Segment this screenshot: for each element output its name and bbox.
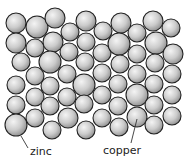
atom-icon: [126, 84, 148, 106]
atom-icon: [93, 86, 111, 104]
atom-icon: [45, 8, 65, 28]
atom-icon: [7, 76, 25, 94]
atom-icon: [145, 116, 163, 134]
atom-icon: [143, 11, 163, 31]
atom-icon: [163, 86, 181, 104]
atom-icon: [110, 118, 128, 136]
atom-icon: [109, 75, 127, 93]
atom-icon: [145, 96, 163, 114]
atom-icon: [128, 45, 146, 63]
atom-icon: [61, 23, 79, 41]
zinc-label: zinc: [30, 146, 52, 157]
atom-icon: [77, 121, 95, 139]
atom-icon: [127, 107, 147, 127]
atom-icon: [75, 95, 93, 113]
atom-icon: [6, 33, 26, 53]
atom-icon: [162, 19, 180, 37]
atom-icon: [76, 53, 94, 71]
brass-lattice-diagram: [0, 0, 188, 163]
zinc-pointer-line: [21, 136, 28, 148]
atom-icon: [109, 97, 127, 115]
atom-icon: [163, 107, 181, 125]
atom-icon: [5, 114, 27, 136]
atom-icon: [93, 64, 111, 82]
copper-label: copper: [103, 145, 141, 156]
atom-icon: [108, 33, 130, 55]
atom-icon: [111, 55, 129, 73]
atom-icon: [12, 53, 30, 71]
atom-icon: [146, 54, 164, 72]
atom-icon: [73, 74, 95, 96]
atom-icon: [58, 88, 76, 106]
atom-icon: [58, 65, 76, 83]
atom-icon: [41, 77, 59, 95]
atom-icon: [76, 11, 96, 31]
atom-icon: [26, 109, 44, 127]
atom-icon: [60, 43, 78, 61]
atom-icon: [128, 65, 146, 83]
atom-icon: [26, 39, 44, 57]
atom-icon: [145, 75, 163, 93]
atom-icon: [39, 51, 61, 73]
atom-icon: [43, 121, 61, 139]
atom-icon: [41, 97, 59, 115]
atom-group: [5, 8, 183, 139]
atom-icon: [93, 109, 111, 127]
atom-icon: [163, 44, 183, 64]
atom-icon: [7, 96, 25, 114]
atom-icon: [163, 65, 181, 83]
atom-icon: [58, 108, 78, 128]
atom-icon: [6, 13, 26, 33]
atom-icon: [94, 22, 112, 40]
atom-icon: [128, 24, 146, 42]
atom-icon: [77, 33, 95, 51]
